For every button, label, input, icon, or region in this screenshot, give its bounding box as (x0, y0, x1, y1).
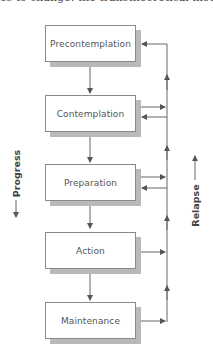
stage-label: Preparation (45, 164, 136, 201)
progress-label: Progress (11, 149, 22, 199)
stage-label: Contemplation (45, 95, 136, 132)
stage-label: Precontemplation (45, 25, 136, 62)
stage-maintenance: Maintenance (45, 302, 136, 339)
stage-action: Action (45, 232, 136, 269)
stage-precontemplation: Precontemplation (45, 25, 136, 62)
relapse-label: Relapse (190, 183, 201, 229)
stage-preparation: Preparation (45, 164, 136, 201)
stage-label: Maintenance (45, 302, 136, 339)
stage-contemplation: Contemplation (45, 95, 136, 132)
stage-label: Action (45, 232, 136, 269)
